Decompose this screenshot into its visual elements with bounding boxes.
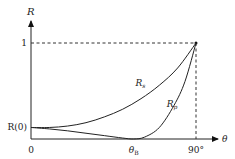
x-tick-label: θB	[129, 145, 139, 156]
series-label-subscript: p	[173, 103, 177, 111]
x-tick-subscript: B	[134, 149, 139, 156]
x-axis-label: θ	[222, 134, 228, 144]
curve-Rs	[31, 43, 196, 128]
y-tick-label: 1	[21, 38, 27, 48]
series-label-subscript: s	[142, 82, 145, 89]
series-label-Rs: Rs	[135, 78, 146, 89]
x-tick-label: 0	[28, 145, 34, 155]
y-tick-label: R(0)	[7, 122, 27, 132]
reflectance-chart: R θ 0θB90°1R(0) RsRp	[0, 0, 235, 159]
x-tick-label: 90°	[188, 145, 204, 155]
curve-Rp	[31, 43, 196, 139]
y-axis-label: R	[26, 6, 35, 17]
